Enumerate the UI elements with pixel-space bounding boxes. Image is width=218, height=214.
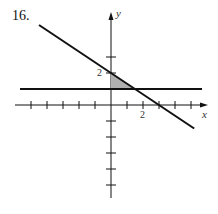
y-axis-arrow <box>109 12 114 20</box>
x-tick-label-2: 2 <box>140 109 145 120</box>
y-axis-label: y <box>115 7 121 19</box>
y-tick-label-2: 2 <box>97 67 102 78</box>
x-axis-arrow <box>200 103 208 108</box>
x-axis-label: x <box>201 108 207 120</box>
diagonal-line <box>39 25 194 128</box>
coordinate-diagram: x y 2 2 <box>0 0 218 214</box>
